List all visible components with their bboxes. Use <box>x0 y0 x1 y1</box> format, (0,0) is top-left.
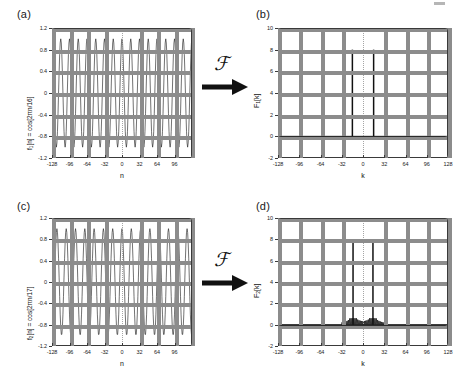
frame-top <box>278 28 448 32</box>
tick-label-y: 10 <box>254 215 273 221</box>
tick-label-y: -2 <box>254 155 273 161</box>
tick-mark-x <box>52 155 53 158</box>
tick-label-y: -1.2 <box>28 155 47 161</box>
tick-mark-y <box>275 239 278 240</box>
tick-label-x: 64 <box>403 349 409 355</box>
tick-label-x: -96 <box>295 161 303 167</box>
tick-label-x: -64 <box>317 349 325 355</box>
tick-label-x: 128 <box>444 161 453 167</box>
tick-mark-x <box>157 343 158 346</box>
panel-b-label: (b) <box>256 8 270 20</box>
tick-label-y: 8 <box>254 47 273 53</box>
tick-mark-x <box>384 155 385 158</box>
gridline-y <box>278 115 448 119</box>
frame-top <box>278 218 448 222</box>
tick-mark-y <box>49 239 52 240</box>
tick-label-y: 0.4 <box>28 68 47 74</box>
tick-label-x: 0 <box>121 349 124 355</box>
tick-mark-x <box>342 155 343 158</box>
panel-d-plot: -128-96-64-320326496128-20246810 <box>278 218 448 346</box>
tick-label-x: -32 <box>101 161 109 167</box>
tick-mark-x <box>122 155 123 158</box>
tick-label-y: -1.2 <box>28 343 47 349</box>
gridline-y <box>52 136 192 140</box>
gridline-y <box>52 93 192 97</box>
frame-right <box>191 218 195 346</box>
tick-mark-x <box>157 155 158 158</box>
tick-mark-y <box>49 261 52 262</box>
tick-label-x: -64 <box>83 161 91 167</box>
tick-label-y: -0.8 <box>28 322 47 328</box>
tick-mark-x <box>299 155 300 158</box>
tick-label-y: 0 <box>28 90 47 96</box>
tick-label-x: -64 <box>317 161 325 167</box>
tick-mark-y <box>275 136 278 137</box>
gridline-y <box>278 71 448 75</box>
tick-label-x: -32 <box>338 161 346 167</box>
tick-mark-y <box>49 158 52 159</box>
tick-label-x: -128 <box>47 349 58 355</box>
tick-mark-x <box>122 343 123 346</box>
gridline-y <box>278 136 448 140</box>
tick-label-x: -32 <box>338 349 346 355</box>
tick-label-y: -0.4 <box>28 112 47 118</box>
panel-a-xlabel: n <box>120 172 124 179</box>
gridline-y <box>52 50 192 54</box>
tick-label-x: 0 <box>362 161 365 167</box>
tick-mark-x <box>363 155 364 158</box>
tick-mark-x <box>427 343 428 346</box>
fourier-operator-icon-top: ℱ <box>214 52 229 74</box>
panel-a: (a) f1[n] = cos[2πn/16] -128-96-64-32032… <box>0 0 205 195</box>
tick-label-x: -96 <box>66 349 74 355</box>
panel-d-label: (d) <box>256 200 270 212</box>
panel-c-plot: -128-96-64-320326496-1.2-0.8-0.400.40.81… <box>52 218 192 346</box>
tick-label-x: 96 <box>424 161 430 167</box>
tick-label-x: 32 <box>137 349 143 355</box>
tick-mark-x <box>406 155 407 158</box>
gridline-y <box>52 71 192 75</box>
gridline-y <box>278 239 448 243</box>
gridline-y <box>278 303 448 307</box>
tick-mark-x <box>140 155 141 158</box>
tick-label-y: 0 <box>28 279 47 285</box>
fourier-operator-icon-bottom: ℱ <box>214 248 229 270</box>
tick-label-y: 0.4 <box>28 258 47 264</box>
gridline-y <box>52 239 192 243</box>
tick-label-x: -96 <box>66 161 74 167</box>
tick-label-x: 32 <box>381 161 387 167</box>
panel-c: (c) f2[n] = cos[2πn/17] -128-96-64-32032… <box>0 192 205 380</box>
panel-d-ylabel: F2[k] <box>253 284 261 298</box>
tick-mark-x <box>406 343 407 346</box>
tick-mark-x <box>87 155 88 158</box>
panel-d-xlabel: k <box>361 360 365 367</box>
tick-label-x: -64 <box>83 349 91 355</box>
tick-mark-y <box>49 325 52 326</box>
gridline-y <box>52 282 192 286</box>
tick-mark-x <box>70 155 71 158</box>
tick-mark-x <box>342 343 343 346</box>
gridline-y <box>278 282 448 286</box>
tick-label-y: 6 <box>254 68 273 74</box>
tick-mark-y <box>49 115 52 116</box>
tick-label-y: 1.2 <box>28 25 47 31</box>
tick-label-y: 10 <box>254 25 273 31</box>
tick-label-x: 128 <box>444 349 453 355</box>
gridline-y <box>52 303 192 307</box>
tick-label-y: 2 <box>254 300 273 306</box>
tick-mark-y <box>49 346 52 347</box>
tick-mark-y <box>275 50 278 51</box>
tick-mark-y <box>275 261 278 262</box>
tick-mark-y <box>275 346 278 347</box>
tick-mark-x <box>105 155 106 158</box>
tick-mark-y <box>275 325 278 326</box>
panel-a-plot: -128-96-64-320326496-1.2-0.8-0.400.40.81… <box>52 28 192 158</box>
tick-label-y: -0.4 <box>28 300 47 306</box>
tick-label-y: 4 <box>254 279 273 285</box>
tick-label-x: 96 <box>424 349 430 355</box>
gridline-y <box>278 325 448 329</box>
frame-top <box>52 218 192 222</box>
tick-mark-x <box>299 343 300 346</box>
tick-label-x: -128 <box>273 349 284 355</box>
panel-b-plot: -128-96-64-320326496128-20246810 <box>278 28 448 158</box>
transform-arrow-top-group: ℱ <box>200 52 252 100</box>
